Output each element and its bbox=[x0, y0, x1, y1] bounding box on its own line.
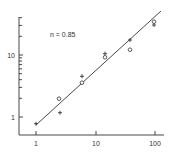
plus-marker bbox=[34, 122, 38, 126]
x-tick-label-1: 1 bbox=[34, 140, 38, 147]
circle-marker bbox=[103, 56, 107, 60]
circle-marker bbox=[152, 20, 156, 24]
slope-annotation: n = 0.85 bbox=[50, 31, 76, 38]
x-axis bbox=[19, 131, 164, 135]
x-tick-label-100: 100 bbox=[149, 140, 161, 147]
fit-line bbox=[36, 11, 161, 125]
y-axis bbox=[19, 17, 23, 135]
circle-marker bbox=[80, 81, 84, 85]
y-tick-label-1: 1 bbox=[11, 114, 15, 121]
log-log-scatter-chart: 1 10 100 1 10 n = 0.85 bbox=[0, 0, 174, 157]
plus-marker bbox=[58, 111, 62, 115]
x-tick-label-10: 10 bbox=[92, 140, 100, 147]
y-tick-label-10: 10 bbox=[7, 52, 15, 59]
plus-marker bbox=[80, 74, 84, 78]
circle-marker bbox=[57, 97, 61, 101]
circle-marker bbox=[128, 48, 132, 52]
